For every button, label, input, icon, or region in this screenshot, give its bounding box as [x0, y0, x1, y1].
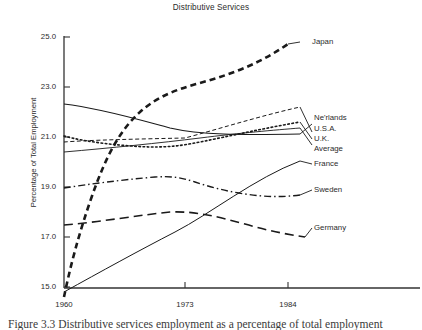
series-line-france — [64, 161, 300, 292]
series-line-nerlands — [64, 104, 300, 134]
figure-caption: Figure 3.3 Distributive services employm… — [8, 318, 418, 330]
series-line-usa — [64, 107, 300, 142]
series-label-sweden: Sweden — [314, 185, 342, 194]
series-label-japan: Japan — [312, 37, 333, 46]
y-axis-ticks — [64, 37, 70, 287]
series-label-usa: U.S.A. — [314, 124, 337, 133]
series-label-france: France — [314, 159, 338, 168]
series-label-germany: Germany — [314, 223, 346, 232]
series-label-nerlands: Ne'rlands — [314, 113, 347, 122]
x-axis-ticks — [185, 282, 288, 288]
series-label-uk: U.K. — [314, 134, 329, 143]
label-leader-lines — [288, 42, 312, 237]
series-line-germany — [64, 212, 305, 237]
series-line-japan — [64, 44, 288, 297]
series-label-average: Average — [314, 144, 343, 153]
